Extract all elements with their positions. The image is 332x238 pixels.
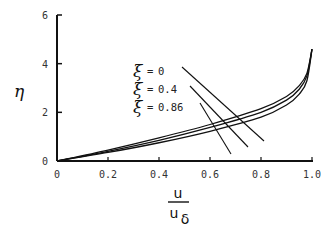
curve bbox=[57, 49, 312, 161]
y-tick-label: 4 bbox=[42, 59, 48, 70]
xi-symbol: ξ bbox=[133, 61, 144, 81]
y-tick-label: 2 bbox=[42, 107, 48, 118]
axes: 0246 00.20.40.60.81.0 bbox=[42, 10, 321, 180]
y-axis-title: η bbox=[14, 81, 25, 101]
curves bbox=[57, 49, 312, 161]
legend-value: 0.4 bbox=[158, 83, 177, 95]
legend-entry: ξ=0.4 bbox=[133, 79, 248, 147]
x-title-subscript: δ bbox=[181, 211, 190, 227]
legend-value: 0 bbox=[158, 65, 164, 77]
x-tick-label: 0 bbox=[54, 169, 60, 180]
curve bbox=[57, 49, 312, 161]
x-title-denominator: u bbox=[170, 205, 179, 221]
equals-sign: = bbox=[147, 101, 153, 113]
equals-sign: = bbox=[147, 65, 153, 77]
y-tick-label: 0 bbox=[42, 156, 48, 167]
x-tick-label: 0.6 bbox=[201, 169, 219, 180]
x-tick-label: 0.8 bbox=[252, 169, 270, 180]
y-ticks: 0246 bbox=[42, 10, 62, 167]
y-tick-label: 6 bbox=[42, 10, 48, 21]
equals-sign: = bbox=[147, 83, 153, 95]
curve bbox=[57, 49, 312, 161]
xi-symbol: ξ bbox=[133, 97, 144, 117]
x-tick-label: 0.4 bbox=[150, 169, 168, 180]
chart: 0246 00.20.40.60.81.0 ξ=0ξ=0.4ξ=0.86 η u… bbox=[0, 0, 332, 238]
x-axis-title: u u δ bbox=[168, 185, 189, 227]
x-title-numerator: u bbox=[174, 185, 183, 201]
leader-line bbox=[182, 67, 264, 141]
x-tick-label: 0.2 bbox=[99, 169, 117, 180]
legend-value: 0.86 bbox=[158, 101, 183, 113]
xi-symbol: ξ bbox=[133, 79, 144, 99]
x-tick-label: 1.0 bbox=[303, 169, 321, 180]
